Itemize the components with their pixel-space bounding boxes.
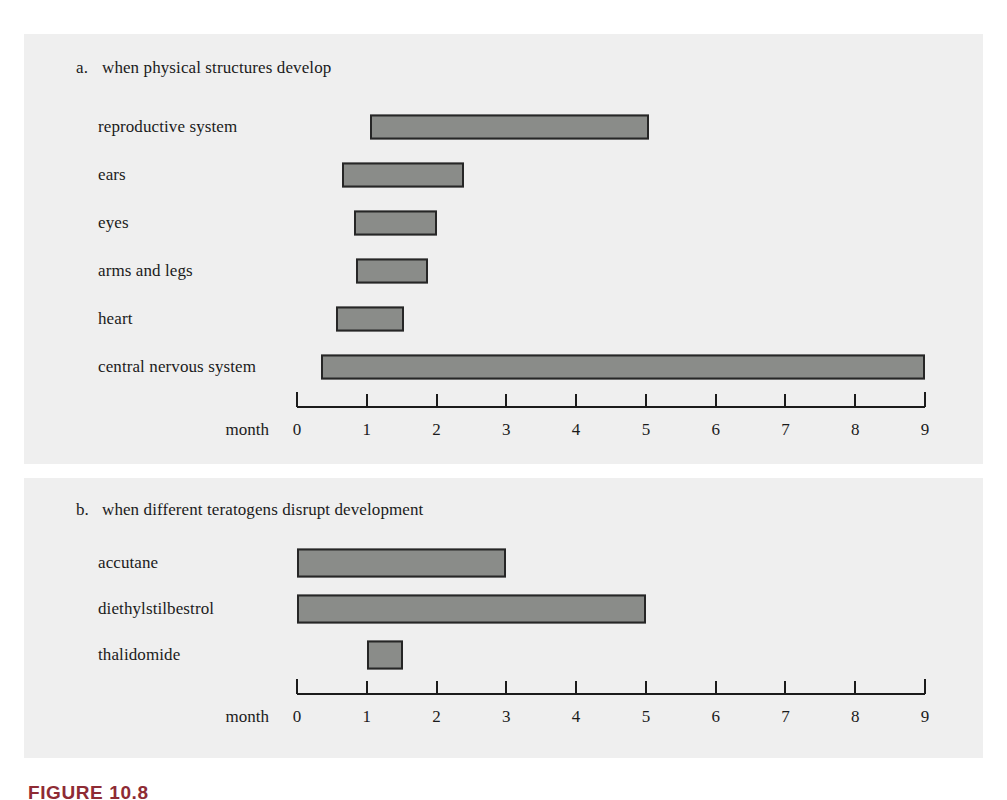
x-axis-tick-6 bbox=[715, 394, 717, 407]
x-axis-tick-9 bbox=[924, 679, 926, 694]
x-axis: 0123456789month bbox=[297, 693, 925, 694]
bar-label-reproductive-system: reproductive system bbox=[98, 117, 237, 137]
panel-b-plot-area: accutanediethylstilbestrolthalidomide012… bbox=[24, 478, 983, 758]
bar-thalidomide bbox=[367, 641, 403, 670]
x-axis-tick-2 bbox=[436, 394, 438, 407]
x-axis: 0123456789month bbox=[297, 406, 925, 407]
x-axis-tick-label-8: 8 bbox=[851, 420, 860, 440]
x-axis-tick-2 bbox=[436, 681, 438, 694]
x-axis-tick-7 bbox=[784, 681, 786, 694]
x-axis-tick-0 bbox=[296, 679, 298, 694]
x-axis-tick-label-3: 3 bbox=[502, 420, 511, 440]
x-axis-tick-label-1: 1 bbox=[363, 420, 372, 440]
x-axis-tick-label-6: 6 bbox=[711, 420, 720, 440]
x-axis-tick-0 bbox=[296, 392, 298, 407]
bar-label-thalidomide: thalidomide bbox=[98, 645, 180, 665]
x-axis-tick-label-1: 1 bbox=[363, 707, 372, 727]
x-axis-line bbox=[297, 406, 925, 408]
bar-label-eyes: eyes bbox=[98, 213, 129, 233]
x-axis-tick-label-5: 5 bbox=[642, 707, 651, 727]
x-axis-tick-label-4: 4 bbox=[572, 707, 581, 727]
bar-label-central-nervous-system: central nervous system bbox=[98, 357, 256, 377]
x-axis-tick-label-8: 8 bbox=[851, 707, 860, 727]
x-axis-tick-4 bbox=[575, 681, 577, 694]
x-axis-tick-1 bbox=[366, 394, 368, 407]
bar-central-nervous-system bbox=[321, 355, 925, 380]
x-axis-tick-label-2: 2 bbox=[432, 420, 441, 440]
bar-accutane bbox=[297, 549, 506, 578]
x-axis-tick-label-9: 9 bbox=[921, 707, 930, 727]
x-axis-tick-9 bbox=[924, 392, 926, 407]
x-axis-tick-6 bbox=[715, 681, 717, 694]
bar-label-ears: ears bbox=[98, 165, 126, 185]
x-axis-name: month bbox=[226, 707, 269, 727]
x-axis-tick-label-0: 0 bbox=[293, 420, 302, 440]
figure-caption: FIGURE 10.8 bbox=[28, 782, 149, 800]
bar-heart bbox=[336, 307, 404, 332]
bar-label-heart: heart bbox=[98, 309, 132, 329]
bar-label-accutane: accutane bbox=[98, 553, 158, 573]
bar-ears bbox=[342, 163, 464, 188]
x-axis-tick-8 bbox=[854, 394, 856, 407]
x-axis-tick-label-7: 7 bbox=[781, 420, 790, 440]
x-axis-tick-label-5: 5 bbox=[642, 420, 651, 440]
panel-b: b.when different teratogens disrupt deve… bbox=[24, 478, 983, 758]
x-axis-tick-label-7: 7 bbox=[781, 707, 790, 727]
figure-container: a.when physical structures develop repro… bbox=[0, 0, 1007, 800]
x-axis-tick-4 bbox=[575, 394, 577, 407]
bar-label-arms-and-legs: arms and legs bbox=[98, 261, 193, 281]
x-axis-tick-label-3: 3 bbox=[502, 707, 511, 727]
x-axis-tick-7 bbox=[784, 394, 786, 407]
x-axis-name: month bbox=[226, 420, 269, 440]
panel-a-plot-area: reproductive systemearseyesarms and legs… bbox=[24, 34, 983, 464]
x-axis-tick-3 bbox=[505, 681, 507, 694]
x-axis-tick-1 bbox=[366, 681, 368, 694]
x-axis-tick-label-2: 2 bbox=[432, 707, 441, 727]
x-axis-tick-label-6: 6 bbox=[711, 707, 720, 727]
bar-arms-and-legs bbox=[356, 259, 428, 284]
bar-eyes bbox=[354, 211, 436, 236]
x-axis-tick-label-0: 0 bbox=[293, 707, 302, 727]
x-axis-tick-5 bbox=[645, 681, 647, 694]
x-axis-line bbox=[297, 693, 925, 695]
x-axis-tick-8 bbox=[854, 681, 856, 694]
x-axis-tick-label-4: 4 bbox=[572, 420, 581, 440]
panel-a: a.when physical structures develop repro… bbox=[24, 34, 983, 464]
bar-label-diethylstilbestrol: diethylstilbestrol bbox=[98, 599, 214, 619]
bar-diethylstilbestrol bbox=[297, 595, 646, 624]
x-axis-tick-label-9: 9 bbox=[921, 420, 930, 440]
x-axis-tick-3 bbox=[505, 394, 507, 407]
bar-reproductive-system bbox=[370, 115, 649, 140]
x-axis-tick-5 bbox=[645, 394, 647, 407]
